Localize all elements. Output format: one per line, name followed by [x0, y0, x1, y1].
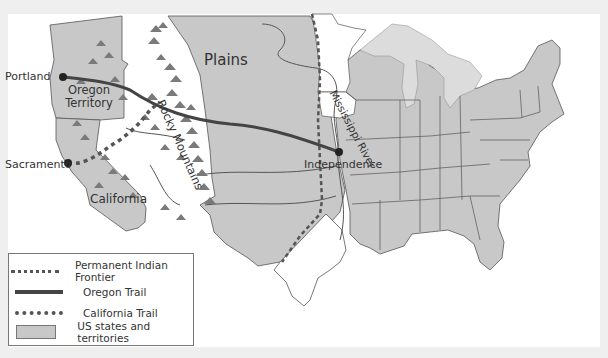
legend-item-frontier: Permanent Indian Frontier [9, 262, 193, 280]
portland-dot [59, 73, 67, 81]
heavy-dotted-line-icon [15, 311, 63, 315]
map-legend: Permanent Indian Frontier Oregon Trail C… [8, 253, 194, 346]
legend-item-states: US states and territories [9, 323, 193, 341]
oregon-territory-label: Oregon Territory [64, 84, 114, 110]
sacramento-label: Sacramento [5, 159, 72, 172]
legend-label: US states and territories [63, 320, 193, 344]
legend-label: California Trail [69, 307, 158, 319]
gray-swatch-icon [16, 325, 56, 339]
dotted-line-icon [11, 270, 59, 273]
legend-item-oregon-trail: Oregon Trail [9, 283, 193, 301]
portland-label: Portland [5, 71, 51, 84]
california-shape [56, 118, 146, 231]
plains-label: Plains [204, 52, 248, 69]
legend-label: Oregon Trail [69, 286, 146, 298]
solid-line-icon [15, 290, 63, 294]
independence-dot [335, 148, 343, 156]
legend-label: Permanent Indian Frontier [61, 259, 193, 283]
california-label: California [90, 193, 147, 207]
